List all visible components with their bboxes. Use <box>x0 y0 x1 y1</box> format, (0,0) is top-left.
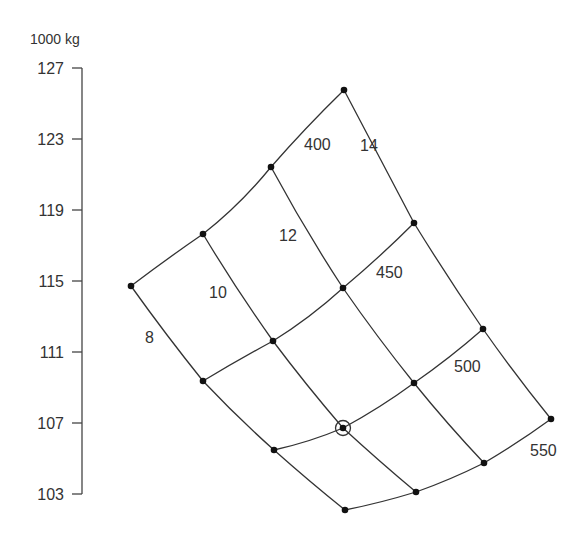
y-tick-label: 111 <box>40 344 64 361</box>
label-b-500: 500 <box>454 358 481 375</box>
y-tick-label: 123 <box>37 131 64 148</box>
label-a-8: 8 <box>145 329 154 346</box>
label-a-12: 12 <box>279 227 297 244</box>
label-b-450: 450 <box>376 264 403 281</box>
label-b-550: 550 <box>530 442 557 459</box>
label-a-10: 10 <box>209 284 227 301</box>
y-tick-label: 127 <box>37 60 64 77</box>
y-tick-label: 119 <box>38 202 64 219</box>
y-tick-label: 115 <box>38 273 64 290</box>
grid-nodes <box>128 87 555 514</box>
curve-labels: 8 10 12 14 400 450 500 550 <box>145 136 557 459</box>
label-a-14: 14 <box>360 137 378 154</box>
y-axis-unit: 1000 kg <box>30 31 80 47</box>
y-tick-label: 103 <box>37 486 64 503</box>
y-axis: 1000 kg 127 123 119 115 111 107 103 <box>30 31 82 503</box>
label-b-400: 400 <box>304 136 331 153</box>
y-tick-label: 107 <box>37 415 64 432</box>
carpet-grid <box>131 90 551 510</box>
carpet-plot: 1000 kg 127 123 119 115 111 107 103 <box>0 0 587 538</box>
